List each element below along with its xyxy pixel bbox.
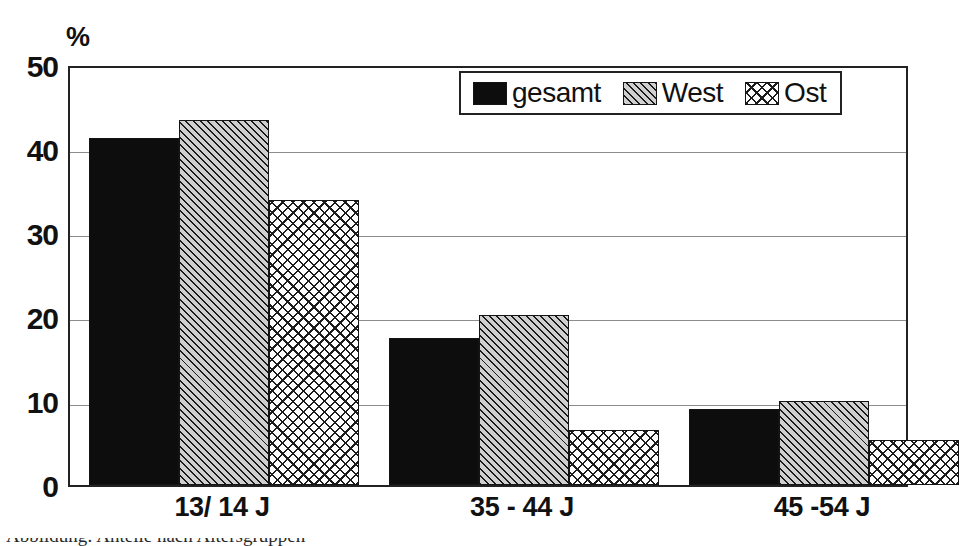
bar-west-13-14[interactable]	[179, 120, 269, 485]
bar-group-container	[70, 68, 906, 485]
y-tick-20: 20	[0, 304, 58, 334]
legend-swatch-gesamt-icon	[473, 82, 507, 105]
legend-entry-west[interactable]: West	[623, 79, 723, 107]
chart-legend: gesamt West Ost	[459, 71, 842, 115]
bar-gesamt-45-54[interactable]	[689, 409, 779, 485]
x-tick-45-54: 45 -54 J	[774, 494, 871, 521]
bar-ost-13-14[interactable]	[269, 200, 359, 485]
x-tick-13-14: 13/ 14 J	[174, 494, 269, 521]
bar-west-45-54[interactable]	[779, 401, 869, 485]
bar-gesamt-13-14[interactable]	[89, 138, 179, 485]
bar-ost-35-44[interactable]	[569, 430, 659, 485]
x-axis-tick-labels: 13/ 14 J 35 - 44 J 45 -54 J	[68, 494, 908, 534]
legend-label-ost: Ost	[784, 79, 826, 107]
y-tick-40: 40	[0, 136, 58, 166]
legend-entry-gesamt[interactable]: gesamt	[473, 79, 601, 107]
y-tick-30: 30	[0, 220, 58, 250]
legend-label-gesamt: gesamt	[512, 79, 601, 107]
y-tick-10: 10	[0, 388, 58, 418]
cut-off-caption-text: Abbildung: Anteile nach Altersgruppen	[6, 538, 305, 546]
bar-gesamt-35-44[interactable]	[389, 338, 479, 485]
cut-off-caption: Abbildung: Anteile nach Altersgruppen	[0, 538, 931, 546]
x-tick-35-44: 35 - 44 J	[470, 494, 574, 521]
y-tick-0: 0	[0, 472, 58, 502]
bar-ost-45-54[interactable]	[869, 440, 959, 485]
y-axis-tick-labels: 50 40 30 20 10 0	[0, 66, 62, 487]
y-tick-50: 50	[0, 52, 58, 82]
legend-label-west: West	[662, 79, 723, 107]
legend-entry-ost[interactable]: Ost	[745, 79, 826, 107]
legend-swatch-ost-icon	[745, 82, 779, 105]
bar-west-35-44[interactable]	[479, 315, 569, 485]
legend-swatch-west-icon	[623, 82, 657, 105]
y-axis-unit-label: %	[66, 24, 90, 51]
plot-area	[68, 66, 908, 487]
